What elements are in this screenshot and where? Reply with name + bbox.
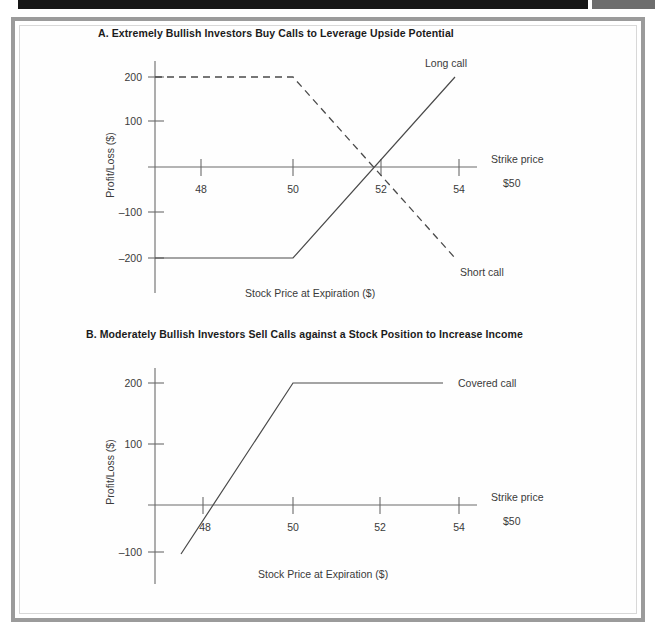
chart-b-svg: 200 100 –100 48 50 52 54 Covered call St… [0,352,655,617]
chart-a-svg: 200 100 –100 –200 48 50 52 54 Long call … [0,45,655,315]
scan-artifact-bar-black [18,0,588,9]
panel-a-title: A. Extremely Bullish Investors Buy Calls… [98,27,454,39]
chart-a-xlabel-50: 50 [287,183,299,195]
panel-b-title: B. Moderately Bullish Investors Sell Cal… [86,328,523,340]
chart-a-x-axis-title: Stock Price at Expiration ($) [245,287,375,299]
chart-a-ylabel-100: 100 [124,115,142,127]
chart-b-series-covered-call [181,383,443,554]
chart-a-xlabel-52: 52 [375,183,387,195]
chart-a-ylabel-neg200: –200 [119,252,143,264]
chart-b-xlabel-50: 50 [287,521,299,533]
chart-a-strike-price-label: Strike price [491,153,544,165]
chart-panel-b: 200 100 –100 48 50 52 54 Covered call St… [0,352,655,617]
chart-b-series-label-covered-call: Covered call [458,377,516,389]
chart-b-x-axis-title: Stock Price at Expiration ($) [258,568,388,580]
chart-a-xlabel-48: 48 [195,183,207,195]
chart-a-y-axis-title: Profit/Loss ($) [104,132,116,197]
chart-panel-a: 200 100 –100 –200 48 50 52 54 Long call … [0,45,655,315]
chart-b-y-axis-title: Profit/Loss ($) [104,439,116,504]
chart-a-series-label-short-call: Short call [460,266,504,278]
chart-b-xlabel-52: 52 [374,521,386,533]
chart-a-series-label-long-call: Long call [425,57,467,69]
chart-a-strike-price-value: $50 [503,177,521,189]
chart-b-strike-price-label: Strike price [491,491,544,503]
chart-b-ylabel-100: 100 [124,438,142,450]
chart-a-xlabel-54: 54 [453,183,465,195]
chart-b-xlabel-54: 54 [453,521,465,533]
chart-b-strike-price-value: $50 [503,515,521,527]
chart-a-ylabel-200: 200 [124,71,142,83]
chart-a-ylabel-neg100: –100 [119,206,143,218]
chart-b-ylabel-neg100: –100 [119,546,143,558]
scan-artifact-bar-gray [592,0,655,9]
chart-b-ylabel-200: 200 [124,377,142,389]
